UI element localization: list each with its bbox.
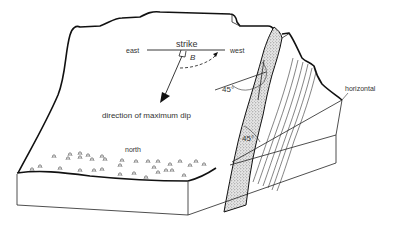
rotation-arrow-head (213, 52, 218, 57)
label-north: north (125, 146, 141, 153)
label-angle-b: B (190, 53, 196, 62)
grass-tufts (30, 151, 206, 179)
hillside-outline (18, 12, 274, 173)
stippled-bed (224, 27, 282, 212)
label-horizontal: horizontal (345, 85, 376, 92)
right-angle-marker (179, 50, 186, 57)
label-angle-lower: 45° (242, 134, 254, 143)
block-top-edge (17, 168, 216, 181)
block-front-right (188, 135, 336, 215)
dip-arrow-head (160, 92, 170, 103)
label-west: west (229, 47, 244, 54)
horizontal-leader (342, 93, 348, 100)
label-strike: strike (176, 39, 198, 49)
label-angle-upper: 45° (222, 85, 234, 94)
label-dip-direction: direction of maximum dip (102, 111, 191, 120)
label-east: east (126, 47, 139, 54)
dip-direction-line (165, 56, 182, 95)
strike-dip-block-diagram: strike east west B direction of maximum … (0, 0, 395, 226)
